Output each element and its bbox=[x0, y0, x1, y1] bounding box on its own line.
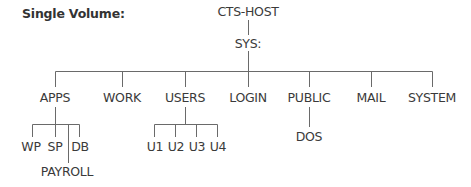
node-u1: U1 bbox=[147, 140, 164, 154]
node-login: LOGIN bbox=[229, 91, 267, 105]
directory-tree-diagram: Single Volume: CTS-HOST SYS: APPS WORK U… bbox=[0, 0, 471, 187]
node-u2: U2 bbox=[168, 140, 185, 154]
node-sp: SP bbox=[48, 140, 63, 154]
node-wp: WP bbox=[21, 140, 40, 154]
node-root-cts-host: CTS-HOST bbox=[217, 5, 278, 19]
node-db: DB bbox=[71, 140, 89, 154]
node-u3: U3 bbox=[189, 140, 206, 154]
node-mail: MAIL bbox=[357, 91, 386, 105]
node-users: USERS bbox=[165, 91, 205, 105]
node-volume-sys: SYS: bbox=[235, 37, 262, 51]
node-u4: U4 bbox=[210, 140, 227, 154]
node-work: WORK bbox=[103, 91, 141, 105]
node-dos: DOS bbox=[296, 130, 323, 144]
node-payroll: PAYROLL bbox=[41, 165, 93, 179]
node-system: SYSTEM bbox=[408, 91, 456, 105]
node-apps: APPS bbox=[40, 91, 70, 105]
node-public: PUBLIC bbox=[288, 91, 331, 105]
diagram-title: Single Volume: bbox=[22, 6, 125, 21]
